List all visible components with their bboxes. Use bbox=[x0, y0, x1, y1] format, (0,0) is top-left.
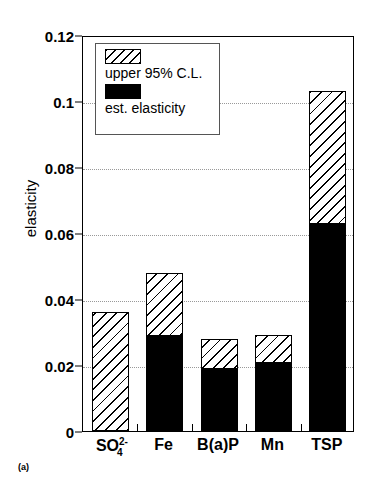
x-tick-mark bbox=[246, 424, 247, 431]
y-tick-mark bbox=[75, 168, 82, 169]
legend-swatch-upper-ci-icon bbox=[105, 49, 141, 64]
y-tick-label: 0.06 bbox=[4, 226, 74, 243]
x-tick-mark bbox=[192, 424, 193, 431]
bar-est-elasticity bbox=[201, 368, 238, 431]
y-tick-mark bbox=[75, 102, 82, 103]
y-tick-label: 0 bbox=[4, 424, 74, 441]
legend-label-upper-ci: upper 95% C.L. bbox=[105, 65, 219, 81]
y-tick-label: 0.1 bbox=[4, 94, 74, 111]
x-category-label-tsp: TSP bbox=[287, 436, 367, 454]
y-tick-mark bbox=[75, 432, 82, 433]
bar-group-mn bbox=[255, 35, 292, 431]
bar-upper-ci bbox=[92, 312, 129, 431]
x-tick-mark bbox=[301, 424, 302, 431]
bar-est-elasticity bbox=[146, 335, 183, 431]
bar-est-elasticity bbox=[255, 362, 292, 431]
y-tick-label: 0.04 bbox=[4, 292, 74, 309]
y-tick-label: 0.12 bbox=[4, 28, 74, 45]
y-tick-mark bbox=[75, 36, 82, 37]
chart-legend: upper 95% C.L. est. elasticity bbox=[95, 43, 220, 135]
bar-est-elasticity bbox=[309, 223, 346, 431]
y-tick-mark bbox=[75, 300, 82, 301]
bar-group-tsp bbox=[309, 35, 346, 431]
x-category-subscript: 4 bbox=[117, 447, 123, 458]
x-tick-mark bbox=[137, 424, 138, 431]
x-category-base: SO bbox=[96, 437, 119, 454]
y-tick-label: 0.08 bbox=[4, 160, 74, 177]
panel-label: (a) bbox=[18, 462, 29, 472]
y-tick-label: 0.02 bbox=[4, 358, 74, 375]
chart-figure: elasticity 0.120.10.080.060.040.020 SO2-… bbox=[0, 0, 373, 491]
legend-label-est-elasticity: est. elasticity bbox=[105, 100, 219, 116]
legend-swatch-est-elasticity-icon bbox=[105, 84, 141, 99]
y-tick-mark bbox=[75, 234, 82, 235]
y-tick-mark bbox=[75, 366, 82, 367]
